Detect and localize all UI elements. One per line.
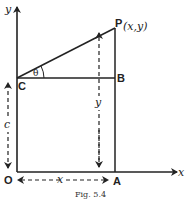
angle-label: θ bbox=[33, 68, 38, 78]
figure-caption: Fig. 5.4 bbox=[75, 190, 106, 199]
point-p-label: P bbox=[115, 17, 122, 29]
x-axis-label: x bbox=[178, 166, 185, 179]
dimension-x-label: x bbox=[57, 173, 64, 186]
angle-arc bbox=[41, 66, 44, 78]
dimension-c-label: c bbox=[4, 118, 10, 131]
diagram-canvas: y x θ y c x O C B P (x,y) A Fig. 5.4 bbox=[0, 0, 186, 200]
y-axis-label: y bbox=[4, 3, 12, 16]
line-cp bbox=[17, 28, 115, 78]
point-c-label: C bbox=[18, 80, 26, 92]
dimension-y-label: y bbox=[94, 96, 102, 109]
point-origin-label: O bbox=[4, 174, 13, 186]
point-a-label: A bbox=[113, 175, 121, 187]
point-p-coords: (x,y) bbox=[123, 20, 148, 33]
point-b-label: B bbox=[117, 72, 125, 84]
